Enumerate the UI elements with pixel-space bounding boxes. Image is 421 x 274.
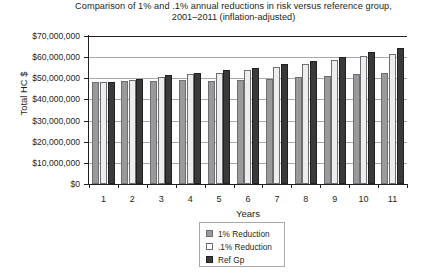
chart-title: Comparison of 1% and .1% annual reductio… [52,1,415,24]
x-tick-mark [234,184,235,188]
bar [353,74,360,184]
x-tick-mark [407,184,408,188]
chart-title-line-1: Comparison of 1% and .1% annual reductio… [52,1,415,12]
chart-legend: 1% Reduction .1% Reduction Ref Gp [199,222,285,267]
bar [136,79,143,185]
y-tick-label: $10,000,000 [0,158,80,168]
y-tick-label: $70,000,000 [0,31,80,41]
bar [302,64,309,184]
bar [92,82,99,184]
legend-swatch-icon-point1-reduction [206,243,213,250]
bar [216,73,223,184]
bar [179,80,186,184]
bar-group [266,36,288,184]
x-tick-mark [291,184,292,188]
legend-swatch-icon-ref-gp [206,256,213,263]
bar-group [121,36,143,184]
bar-group [295,36,317,184]
bar [331,60,338,184]
y-tick-label: $40,000,000 [0,94,80,104]
bar [150,81,157,184]
bar [273,67,280,184]
legend-label-1-reduction: 1% Reduction [218,229,270,239]
y-tick-label: $20,000,000 [0,137,80,147]
legend-swatch-icon-1-reduction [206,230,213,237]
legend-item-1-reduction: 1% Reduction [206,227,284,240]
x-tick-mark [118,184,119,188]
bar [266,79,273,184]
bar [208,81,215,184]
bar-group [92,36,114,184]
bar [194,73,201,184]
x-tick-label: 11 [373,194,413,204]
y-tick-label: $60,000,000 [0,52,80,62]
x-tick-mark [205,184,206,188]
x-axis-title: Years [89,208,407,219]
x-tick-mark [378,184,379,188]
bar-group [324,36,346,184]
bar [281,64,288,184]
x-axis-line [88,184,408,185]
bar [310,61,317,184]
bar [121,81,128,184]
bar [223,70,230,184]
y-tick-label: $0 [0,179,80,189]
x-tick-mark [89,184,90,188]
bar-group [381,36,403,184]
bar-group [237,36,259,184]
bar [381,73,388,184]
x-tick-mark [262,184,263,188]
bar [389,54,396,184]
legend-item-ref-gp: Ref Gp [206,253,284,266]
bar [360,56,367,184]
bar [244,70,251,184]
legend-item-point1-reduction: .1% Reduction [206,240,284,253]
bar [252,68,259,184]
bar [165,75,172,184]
bar [324,76,331,184]
x-tick-mark [176,184,177,188]
chart-figure: Comparison of 1% and .1% annual reductio… [0,0,421,274]
bar [368,52,375,184]
bar [158,77,165,184]
chart-title-line-2: 2001–2011 (inflation-adjusted) [52,12,415,23]
legend-label-ref-gp: Ref Gp [218,255,244,265]
bar [108,82,115,184]
bar [397,48,404,184]
bar [187,74,194,184]
x-tick-mark [349,184,350,188]
x-tick-mark [147,184,148,188]
bar [295,77,302,184]
legend-label-point1-reduction: .1% Reduction [218,242,272,252]
y-tick-label: $50,000,000 [0,73,80,83]
x-tick-mark [320,184,321,188]
bar-group [353,36,375,184]
bar [129,80,136,184]
bar-group [179,36,201,184]
bar [100,82,107,184]
plot-area: 1234567891011 [89,36,407,184]
y-tick-label: $30,000,000 [0,116,80,126]
bar [237,80,244,184]
bar [339,57,346,184]
bar-group [208,36,230,184]
bar-group [150,36,172,184]
